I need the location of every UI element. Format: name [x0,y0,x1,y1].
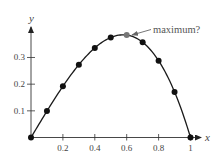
data-line [31,35,191,138]
data-point [60,83,66,89]
data-point [108,34,114,40]
annotation-arrow [132,30,151,36]
y-tick-label: 0.2 [14,79,25,89]
data-point [156,58,162,64]
data-point [92,45,98,51]
annotation-text: maximum? [153,24,201,35]
data-point [76,62,82,68]
y-tick-label: 0.3 [14,52,26,62]
x-ticks: 0.20.40.60.81 [57,134,192,153]
data-point [172,89,178,95]
y-tick-label: 0.1 [14,106,25,116]
annotation: maximum? [132,24,201,35]
data-point [188,135,194,141]
x-tick-label: 0.2 [57,143,68,153]
data-point-maximum [124,32,130,38]
x-axis-label: x [204,131,210,143]
x-tick-label: 0.8 [153,143,165,153]
data-markers [28,32,194,140]
data-point [28,135,34,141]
data-point [140,39,146,45]
y-axis-label: y [28,12,34,24]
chart: x y 0.20.40.60.81 0.10.20.3 maximum? [0,0,219,165]
x-tick-label: 0.4 [89,143,101,153]
data-point [44,108,50,114]
x-tick-label: 0.6 [121,143,133,153]
x-tick-label: 1 [188,143,193,153]
y-ticks: 0.10.20.3 [14,52,35,115]
